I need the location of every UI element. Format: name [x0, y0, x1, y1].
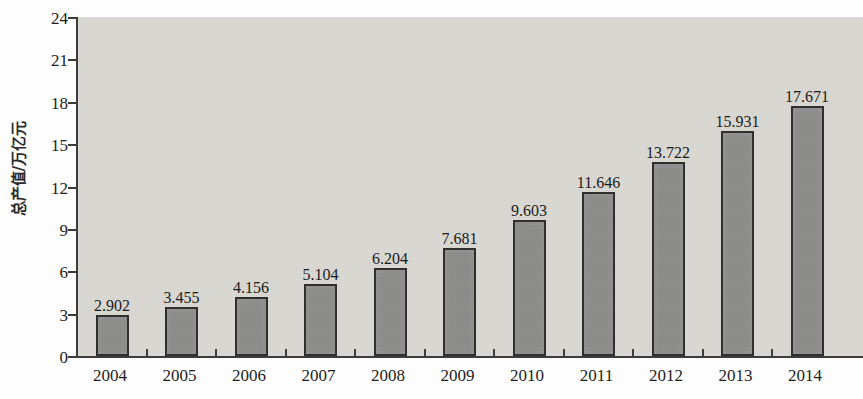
x-axis-tick-label: 2009	[441, 367, 475, 384]
x-axis-tick-label: 2012	[649, 367, 683, 384]
bar-value-label: 9.603	[511, 203, 547, 219]
bar: 6.204	[374, 268, 407, 356]
x-axis-tick-label: 2011	[580, 367, 613, 384]
y-axis-tick-mark	[68, 102, 76, 104]
y-axis-tick-label: 12	[34, 179, 68, 196]
bar: 9.603	[513, 220, 546, 356]
x-axis-tick-label: 2007	[302, 367, 336, 384]
x-axis-tick-label: 2014	[788, 367, 822, 384]
x-axis-tick-mark	[702, 349, 704, 357]
bar: 15.931	[721, 131, 754, 356]
y-axis-tick-mark	[68, 17, 76, 19]
y-axis-tick-mark	[68, 229, 76, 231]
y-axis-tick-label: 21	[34, 52, 68, 69]
y-axis-tick-mark	[68, 59, 76, 61]
x-axis-tick-mark	[215, 349, 217, 357]
bar-value-label: 17.671	[785, 89, 829, 105]
x-axis-tick-mark	[563, 349, 565, 357]
x-axis-tick-mark	[354, 349, 356, 357]
y-axis-tick-label: 0	[34, 349, 68, 366]
plot-area: 2.9023.4554.1565.1046.2047.6819.60311.64…	[76, 17, 863, 358]
y-axis-tick-mark	[68, 144, 76, 146]
bar: 3.455	[165, 307, 198, 356]
x-axis-tick-label: 2013	[719, 367, 753, 384]
bar-value-label: 6.204	[372, 251, 408, 267]
x-axis-tick-mark	[493, 349, 495, 357]
x-axis-tick-mark	[146, 349, 148, 357]
x-axis-tick-label: 2004	[93, 367, 127, 384]
y-axis-tick-label: 9	[34, 221, 68, 238]
y-axis-tick-mark	[68, 271, 76, 273]
x-axis-tick-label: 2005	[163, 367, 197, 384]
x-axis-tick-labels: 2004200520062007200820092010201120122013…	[76, 362, 863, 398]
bar: 11.646	[582, 192, 615, 356]
x-axis-tick-mark	[424, 349, 426, 357]
bar-value-label: 13.722	[646, 145, 690, 161]
x-axis-tick-label: 2010	[510, 367, 544, 384]
x-axis-tick-label: 2008	[371, 367, 405, 384]
y-axis-tick-mark	[68, 314, 76, 316]
bar: 4.156	[235, 297, 268, 356]
y-axis-tick-label: 6	[34, 264, 68, 281]
bar-chart-figure: 总产值/万亿元 03691215182124 2.9023.4554.1565.…	[0, 0, 863, 399]
bar-value-label: 7.681	[442, 231, 478, 247]
y-axis-tick-label: 18	[34, 94, 68, 111]
bar: 5.104	[304, 284, 337, 356]
bar-value-label: 4.156	[233, 280, 269, 296]
bar: 13.722	[652, 162, 685, 356]
x-axis-tick-mark	[285, 349, 287, 357]
bar-value-label: 11.646	[577, 175, 620, 191]
y-axis-tick-mark	[68, 356, 76, 358]
x-axis-tick-mark	[632, 349, 634, 357]
bar-value-label: 3.455	[164, 290, 200, 306]
bar: 17.671	[791, 106, 824, 356]
y-axis-tick-label: 3	[34, 306, 68, 323]
bar-value-label: 15.931	[716, 114, 760, 130]
y-axis-title: 总产值/万亿元	[7, 89, 28, 249]
y-axis-tick-label: 24	[34, 10, 68, 27]
x-axis-tick-label: 2006	[232, 367, 266, 384]
bar: 2.902	[96, 315, 129, 356]
y-axis-tick-labels: 03691215182124	[28, 0, 68, 399]
y-axis-tick-mark	[68, 187, 76, 189]
bar: 7.681	[443, 248, 476, 356]
bar-value-label: 2.902	[94, 298, 130, 314]
y-axis-tick-label: 15	[34, 137, 68, 154]
x-axis-tick-mark	[771, 349, 773, 357]
bar-value-label: 5.104	[303, 267, 339, 283]
